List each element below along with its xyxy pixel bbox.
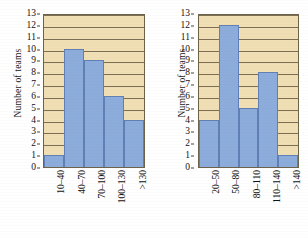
y-tick-label: 3 — [31, 128, 36, 138]
y-tick-mark — [37, 168, 40, 169]
y-tick-label: 12 — [181, 21, 191, 31]
y-tick-label: 7 — [31, 80, 36, 90]
chart-panel-left: Number of teams 012345678910111213 10–40… — [0, 0, 154, 238]
y-tick-label: 3 — [185, 128, 190, 138]
histogram-bar — [239, 108, 259, 167]
y-tick-label: 9 — [31, 57, 36, 67]
y-tick-label: 8 — [31, 68, 36, 78]
y-tick-mark — [191, 96, 194, 97]
histogram-bar — [64, 49, 84, 167]
x-tick-label: 10–40 — [57, 170, 67, 230]
y-tick-label: 0 — [185, 163, 190, 173]
y-tick-mark — [37, 25, 40, 26]
y-tick-label: 13 — [27, 9, 37, 19]
y-tick-label: 2 — [185, 140, 190, 150]
x-tick-label: 80–110 — [253, 170, 263, 230]
bars-right — [199, 15, 298, 167]
histogram-bar — [219, 25, 239, 167]
bars-left — [44, 15, 144, 167]
y-tick-mark — [37, 144, 40, 145]
y-tick-label: 6 — [185, 92, 190, 102]
y-tick-mark — [191, 37, 194, 38]
chart-panel-right: Number of teams 012345678910111213 20–50… — [154, 0, 308, 238]
x-tick-label: 70–100 — [98, 170, 108, 230]
y-tick-mark — [37, 120, 40, 121]
y-tick-mark — [191, 73, 194, 74]
y-tick-label: 1 — [31, 151, 36, 161]
histogram-bar — [199, 120, 219, 167]
y-tick-label: 5 — [31, 104, 36, 114]
y-axis-ticks-left: 012345678910111213 — [0, 14, 40, 168]
y-tick-mark — [37, 73, 40, 74]
x-tick-label: >140 — [293, 170, 303, 230]
y-tick-label: 7 — [185, 80, 190, 90]
y-tick-label: 10 — [181, 45, 191, 55]
y-tick-label: 0 — [31, 163, 36, 173]
x-tick-label: >130 — [139, 170, 149, 230]
y-tick-mark — [191, 108, 194, 109]
y-tick-mark — [191, 168, 194, 169]
plot-area-right — [198, 14, 299, 168]
y-tick-label: 1 — [185, 151, 190, 161]
x-tick-label: 110–140 — [273, 170, 283, 230]
y-tick-label: 4 — [185, 116, 190, 126]
y-tick-mark — [37, 132, 40, 133]
x-tick-label: 100–130 — [118, 170, 128, 230]
y-tick-label: 4 — [31, 116, 36, 126]
y-tick-mark — [191, 132, 194, 133]
y-tick-mark — [37, 96, 40, 97]
y-tick-mark — [37, 61, 40, 62]
y-tick-mark — [191, 120, 194, 121]
y-tick-label: 11 — [27, 33, 36, 43]
x-axis-labels-left: 10–4040–7070–100100–130>130 — [43, 170, 145, 236]
y-tick-mark — [37, 14, 40, 15]
histogram-figure: Number of teams 012345678910111213 10–40… — [0, 0, 308, 238]
y-tick-label: 5 — [185, 104, 190, 114]
x-axis-labels-right: 20–5050–8080–110110–140>140 — [198, 170, 299, 236]
histogram-bar — [124, 120, 144, 167]
x-tick-label: 40–70 — [78, 170, 88, 230]
x-tick-label: 50–80 — [232, 170, 242, 230]
y-tick-mark — [37, 156, 40, 157]
y-tick-mark — [37, 108, 40, 109]
y-axis-ticks-right: 012345678910111213 — [154, 14, 194, 168]
y-tick-mark — [191, 25, 194, 26]
y-tick-label: 2 — [31, 140, 36, 150]
histogram-bar — [278, 155, 298, 167]
y-tick-label: 12 — [27, 21, 37, 31]
y-tick-mark — [191, 61, 194, 62]
y-tick-mark — [191, 85, 194, 86]
x-tick-label: 20–50 — [212, 170, 222, 230]
y-tick-label: 6 — [31, 92, 36, 102]
y-tick-label: 13 — [181, 9, 191, 19]
y-tick-mark — [191, 14, 194, 15]
plot-area-left — [43, 14, 145, 168]
y-tick-mark — [191, 144, 194, 145]
histogram-bar — [84, 60, 104, 167]
y-tick-mark — [37, 49, 40, 50]
y-tick-mark — [37, 85, 40, 86]
y-tick-mark — [191, 49, 194, 50]
y-tick-label: 8 — [185, 68, 190, 78]
y-tick-mark — [37, 37, 40, 38]
histogram-bar — [44, 155, 64, 167]
histogram-bar — [104, 96, 124, 167]
y-tick-label: 9 — [185, 57, 190, 67]
histogram-bar — [258, 72, 278, 167]
y-tick-mark — [191, 156, 194, 157]
y-tick-label: 11 — [181, 33, 190, 43]
y-tick-label: 10 — [27, 45, 37, 55]
